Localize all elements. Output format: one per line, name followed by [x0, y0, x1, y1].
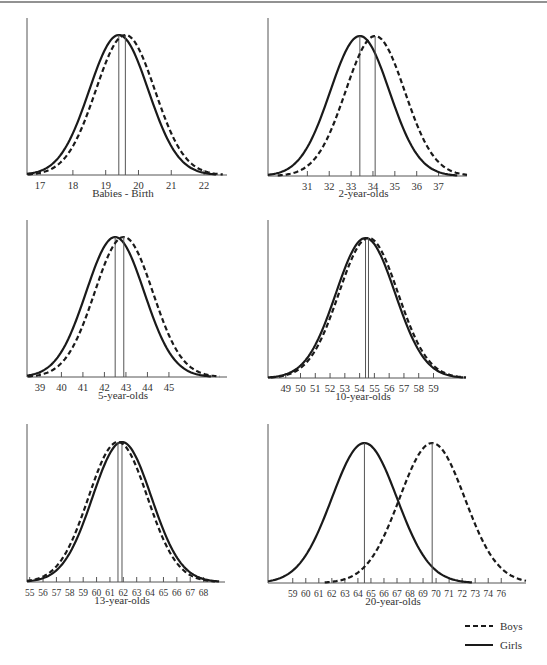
x-tick-label: 60 [301, 589, 311, 599]
x-tick-label: 62 [327, 589, 337, 599]
x-tick-label: 70 [431, 589, 441, 599]
x-tick-label: 18 [68, 180, 79, 191]
x-tick-label: 73 [470, 589, 480, 599]
x-tick-label: 37 [433, 181, 444, 192]
x-tick-label: 63 [340, 589, 350, 599]
panel-label: Babies - Birth [92, 187, 154, 199]
legend: Boys Girls [465, 620, 523, 651]
x-tick-label: 76 [496, 589, 506, 599]
legend-item-boys: Boys [465, 620, 523, 632]
x-tick-label: 49 [280, 383, 291, 394]
height-distribution-figure: 171819202122Babies - Birth 3132333435363… [0, 0, 547, 665]
x-tick-label: 66 [172, 588, 182, 598]
panel-babies-birth: 171819202122Babies - Birth [27, 18, 227, 199]
panel-label: 20-year-olds [365, 595, 420, 607]
girls-distribution-curve [27, 237, 211, 376]
x-tick-label: 36 [411, 181, 422, 192]
girls-distribution-curve [268, 36, 457, 175]
x-tick-label: 71 [444, 589, 454, 599]
panel-20-year-olds: 596061626364656667686970717273747620-yea… [268, 424, 526, 607]
panel-label: 10-year-olds [335, 390, 390, 402]
girls-distribution-curve [27, 442, 219, 581]
x-tick-label: 74 [483, 589, 493, 599]
x-tick-label: 31 [302, 181, 313, 192]
x-tick-label: 65 [159, 588, 169, 598]
x-tick-label: 56 [38, 588, 48, 598]
panel-label: 2-year-olds [339, 187, 389, 199]
panel-13-year-olds: 555657585960616263646566676813-year-olds [25, 424, 225, 606]
x-tick-label: 59 [428, 383, 439, 394]
panel-label: 13-year-olds [94, 594, 149, 606]
boys-distribution-curve [27, 442, 215, 581]
panel-2-year-olds: 313233343536372-year-olds [268, 18, 467, 199]
x-tick-label: 52 [325, 383, 336, 394]
x-tick-label: 35 [390, 181, 401, 192]
x-tick-label: 59 [288, 589, 298, 599]
x-tick-label: 21 [166, 180, 177, 191]
x-tick-label: 68 [199, 588, 209, 598]
x-tick-label: 67 [185, 588, 195, 598]
legend-item-girls: Girls [465, 639, 522, 651]
x-tick-label: 61 [314, 589, 324, 599]
x-tick-label: 55 [25, 588, 35, 598]
x-tick-label: 22 [199, 180, 210, 191]
x-tick-label: 59 [78, 588, 88, 598]
x-tick-label: 57 [399, 383, 410, 394]
boys-distribution-curve [278, 36, 467, 175]
x-tick-label: 50 [295, 383, 306, 394]
x-tick-label: 40 [56, 382, 67, 393]
x-tick-label: 51 [310, 383, 321, 394]
legend-label-girls: Girls [500, 639, 522, 651]
x-tick-label: 32 [324, 181, 335, 192]
x-tick-label: 58 [413, 383, 424, 394]
x-tick-label: 39 [35, 382, 46, 393]
x-tick-label: 45 [164, 382, 175, 393]
x-tick-label: 17 [35, 180, 46, 191]
legend-label-boys: Boys [500, 620, 523, 632]
boys-distribution-curve [325, 443, 526, 582]
girls-distribution-curve [27, 35, 216, 174]
panel-5-year-olds: 394041424344455-year-olds [27, 220, 227, 401]
panel-10-year-olds: 495051525354555657585910-year-olds [268, 220, 466, 402]
panel-label: 5-year-olds [98, 389, 148, 401]
x-tick-label: 41 [78, 382, 89, 393]
x-tick-label: 57 [52, 588, 62, 598]
x-tick-label: 72 [457, 589, 467, 599]
x-tick-label: 64 [353, 589, 363, 599]
figure-root: 171819202122Babies - Birth 3132333435363… [0, 0, 547, 665]
x-tick-label: 58 [65, 588, 75, 598]
